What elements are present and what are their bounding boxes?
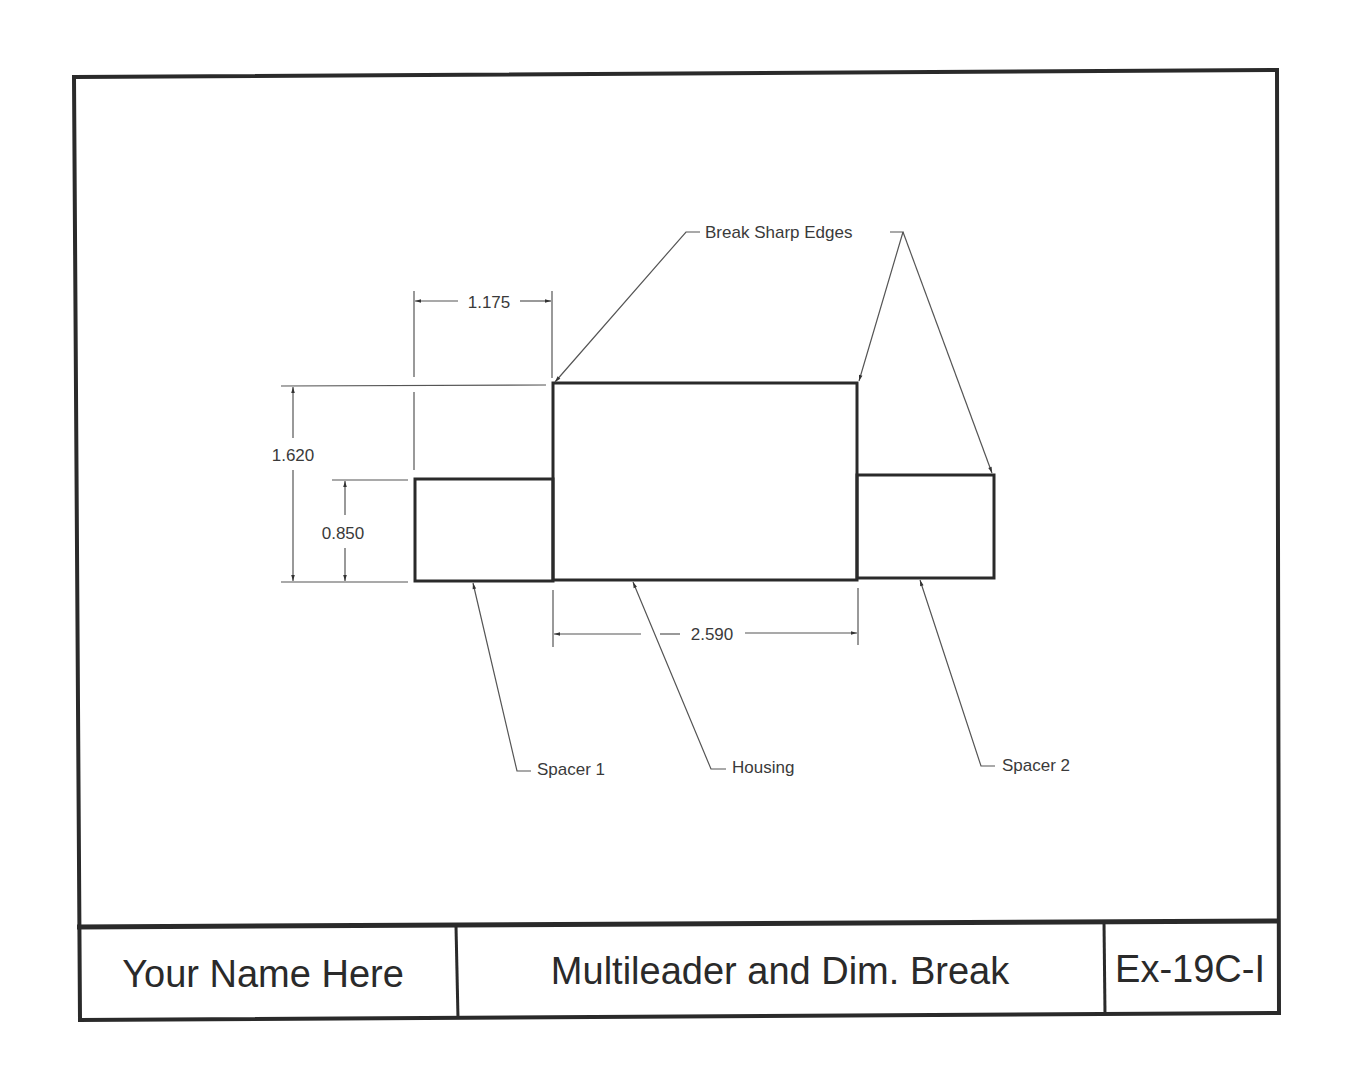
- leader-spacer-1: Spacer 1: [537, 760, 605, 779]
- title-block: Your Name Here Multileader and Dim. Brea…: [77, 921, 1278, 1018]
- title-block-number: Ex-19C-I: [1115, 948, 1265, 990]
- title-block-name: Your Name Here: [122, 953, 404, 995]
- dim-housing-width: 2.590: [691, 625, 734, 644]
- dim-spacer-height: 0.850: [322, 524, 365, 543]
- dim-overall-height: 1.620: [272, 446, 315, 465]
- leaders: [473, 232, 995, 771]
- spacer-2: [857, 475, 994, 578]
- drawing-sheet: Your Name Here Multileader and Dim. Brea…: [0, 0, 1349, 1080]
- spacer-1: [415, 479, 553, 581]
- dim-top-width: 1.175: [468, 293, 511, 312]
- part-outlines: [415, 383, 994, 581]
- title-block-title: Multileader and Dim. Break: [551, 950, 1010, 992]
- sheet-border: [74, 70, 1279, 1020]
- leader-housing: Housing: [732, 758, 794, 777]
- dimensions: [281, 291, 858, 647]
- leader-spacer-2: Spacer 2: [1002, 756, 1070, 775]
- housing: [553, 383, 857, 580]
- leader-break-sharp-edges: Break Sharp Edges: [705, 223, 852, 242]
